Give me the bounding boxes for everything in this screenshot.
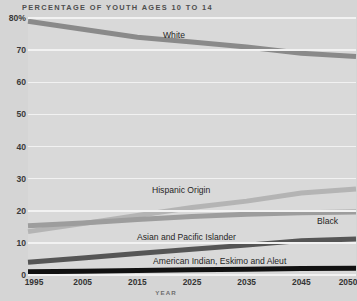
gridline xyxy=(28,210,356,212)
gridline xyxy=(28,82,356,84)
gridline xyxy=(28,114,356,116)
series-label-white: White xyxy=(163,30,185,40)
x-axis-title: YEAR xyxy=(155,289,177,296)
y-tick-label: 40 xyxy=(2,142,26,152)
gridline xyxy=(28,274,356,276)
y-tick-label: 70 xyxy=(2,45,26,55)
gridline xyxy=(28,17,356,19)
series-label-black: Black xyxy=(317,216,338,226)
y-axis: 01020304050607080% xyxy=(0,18,26,275)
x-tick-label: 1995 xyxy=(25,277,44,287)
series-label-american-indian: American Indian, Eskimo and Aleut xyxy=(153,256,286,266)
series-label-hispanic: Hispanic Origin xyxy=(152,185,210,195)
series-label-asian: Asian and Pacific Islander xyxy=(137,232,236,242)
y-tick-label: 10 xyxy=(2,238,26,248)
y-tick-label: 30 xyxy=(2,174,26,184)
x-tick-label: 2035 xyxy=(237,277,256,287)
gridline xyxy=(28,146,356,148)
y-tick-label: 50 xyxy=(2,109,26,119)
x-tick-label: 2045 xyxy=(292,277,311,287)
x-tick-label: 2005 xyxy=(73,277,92,287)
x-tick-label: 2050 xyxy=(339,277,357,287)
series-line-american-indian-eskimo-and-aleut xyxy=(28,268,356,272)
x-tick-label: 2025 xyxy=(183,277,202,287)
gridline xyxy=(28,178,356,180)
y-tick-label: 20 xyxy=(2,206,26,216)
series-line-black xyxy=(28,212,356,226)
chart-title: PERCENTAGE OF YOUTH AGES 10 TO 14 xyxy=(22,3,213,12)
gridline xyxy=(28,49,356,51)
x-axis: 1995200520152025203520452050 xyxy=(28,277,356,289)
y-tick-label: 80% xyxy=(2,13,26,23)
y-tick-label: 60 xyxy=(2,77,26,87)
x-tick-label: 2015 xyxy=(128,277,147,287)
gridline xyxy=(28,242,356,244)
series-line-white xyxy=(28,21,356,56)
y-tick-label: 0 xyxy=(2,270,26,280)
